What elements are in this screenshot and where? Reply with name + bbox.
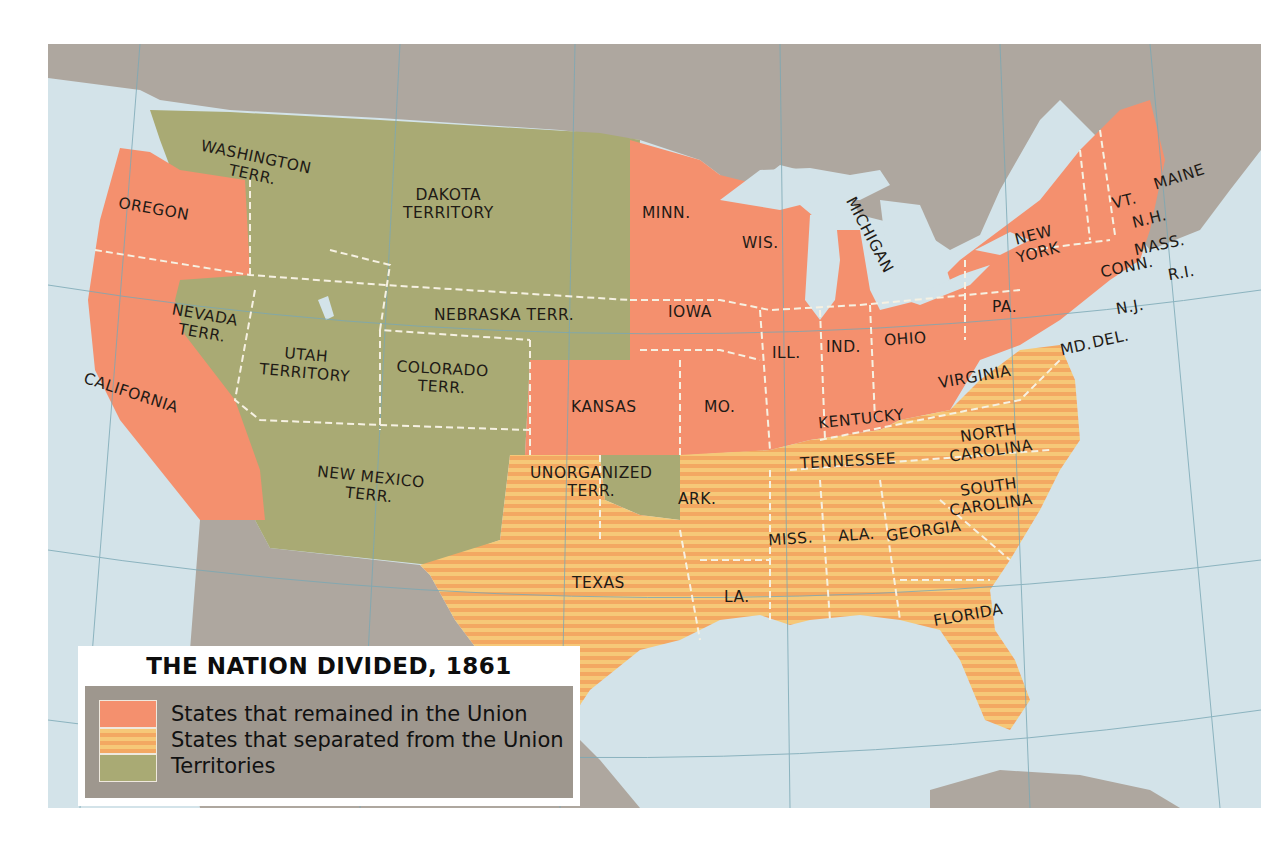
label-text: UNORGANIZED xyxy=(530,464,653,482)
label-ind: IND. xyxy=(826,338,861,356)
label-minn: MINN. xyxy=(642,204,691,222)
legend-body: States that remained in the Union States… xyxy=(85,686,573,798)
swatch-confederate xyxy=(99,728,157,754)
label-ohio: OHIO xyxy=(883,329,927,350)
label-text: TERR. xyxy=(417,377,466,397)
label-mo: MO. xyxy=(704,398,735,416)
map-title: THE NATION DIVIDED, 1861 xyxy=(78,646,580,684)
label-text: TERR. xyxy=(567,482,615,500)
label-colorado: COLORADOTERR. xyxy=(395,358,489,399)
label-texas: TEXAS xyxy=(572,574,625,592)
swatch-territory xyxy=(99,754,157,782)
label-wis: WIS. xyxy=(742,234,779,252)
legend-item-confederate: States that separated from the Union xyxy=(171,728,564,752)
legend-item-territory: Territories xyxy=(171,754,275,778)
label-text: TERRITORY xyxy=(403,204,494,222)
label-ark: ARK. xyxy=(678,490,716,508)
label-text: DAKOTA xyxy=(416,186,482,204)
label-iowa: IOWA xyxy=(668,303,712,321)
label-ala: ALA. xyxy=(837,525,875,546)
legend: THE NATION DIVIDED, 1861 States that rem… xyxy=(78,646,580,806)
label-ill: ILL. xyxy=(772,344,801,362)
label-unorganized: UNORGANIZEDTERR. xyxy=(530,464,653,500)
label-miss: MISS. xyxy=(767,528,813,549)
label-dakota: DAKOTATERRITORY xyxy=(403,186,494,222)
swatch-union xyxy=(99,700,157,728)
label-la: LA. xyxy=(724,588,750,606)
legend-item-union: States that remained in the Union xyxy=(171,702,528,726)
label-pa: PA. xyxy=(992,298,1017,316)
label-nebraska: NEBRASKA TERR. xyxy=(434,306,574,324)
label-text: COLORADO xyxy=(396,358,489,381)
label-kansas: KANSAS xyxy=(571,398,637,416)
